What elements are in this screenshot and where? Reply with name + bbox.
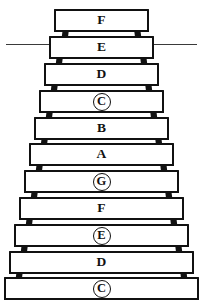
instrument-body: F E D C B A G F E D C <box>0 0 203 307</box>
note-bar-g-octave[interactable]: G <box>24 170 179 193</box>
note-label-circled: C <box>93 280 111 298</box>
note-bar-e-high[interactable]: E <box>49 36 154 59</box>
note-bar-e-octave[interactable]: E <box>14 224 189 247</box>
note-bar-c-low-octave[interactable]: C <box>4 277 199 300</box>
note-label: D <box>97 67 107 81</box>
note-label: B <box>97 121 106 135</box>
xylophone-diagram: F E D C B A G F E D C <box>0 0 203 307</box>
note-bar-d-high[interactable]: D <box>44 63 159 86</box>
note-label-circled: E <box>93 227 111 245</box>
note-label: F <box>97 13 105 27</box>
note-bar-a[interactable]: A <box>29 143 174 166</box>
note-label: A <box>97 147 107 161</box>
note-label: F <box>97 201 105 215</box>
note-label-circled: G <box>93 173 111 191</box>
note-bar-f-low[interactable]: F <box>19 197 184 220</box>
note-label-circled: C <box>93 93 111 111</box>
note-bar-f-high[interactable]: F <box>54 9 149 32</box>
note-bar-d-low[interactable]: D <box>9 251 194 274</box>
note-label: E <box>97 40 106 54</box>
note-bar-b[interactable]: B <box>34 117 169 140</box>
note-bar-c-octave[interactable]: C <box>39 90 164 113</box>
note-label: D <box>97 255 107 269</box>
